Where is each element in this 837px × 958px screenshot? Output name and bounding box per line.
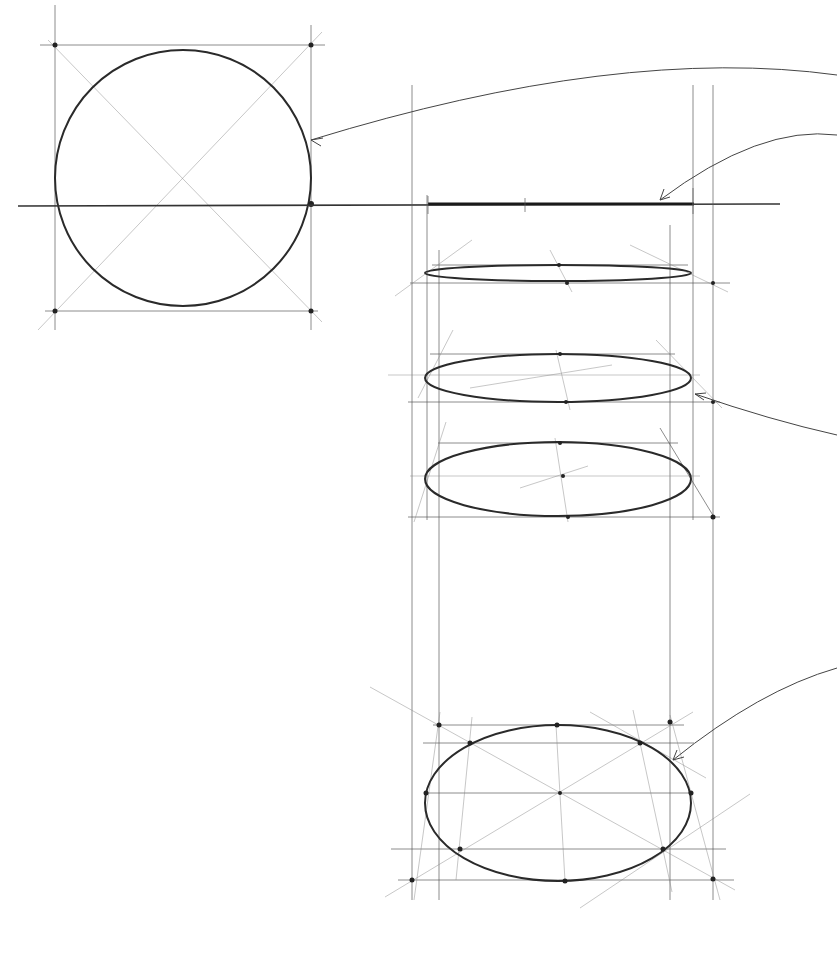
- leader-arrows: [311, 68, 837, 760]
- leader-arrow-2: [660, 134, 837, 200]
- ellipse-1: [425, 265, 691, 281]
- reference-circle-group: [38, 5, 325, 330]
- leader-arrow-4: [673, 668, 837, 760]
- column-guides: [412, 85, 713, 900]
- ellipse-4-group: [370, 687, 750, 908]
- ellipse-2: [425, 354, 691, 402]
- perspective-ellipse-diagram: [0, 0, 837, 958]
- leader-arrow-1: [311, 68, 837, 140]
- leader-arrow-3: [695, 394, 837, 435]
- ellipse-1-group: [395, 240, 730, 296]
- ellipse-3: [425, 442, 691, 516]
- ellipse-2-group: [388, 330, 722, 410]
- ellipse-4: [425, 725, 691, 881]
- ellipse-3-group: [408, 422, 720, 522]
